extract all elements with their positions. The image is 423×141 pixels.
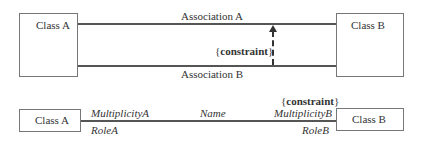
- class-a-box-top: Class A: [19, 13, 78, 77]
- multiplicity-a-label: MultiplicityA: [91, 107, 149, 119]
- constraint-label-bottom: {constraint}: [281, 95, 339, 107]
- class-b-box-bottom: Class B: [336, 108, 404, 131]
- class-b-box-top: Class B: [336, 13, 404, 77]
- association-b-line: [78, 65, 336, 67]
- class-b-label: Class B: [351, 19, 385, 31]
- role-b-label: RoleB: [302, 124, 329, 136]
- association-name-label: Name: [200, 107, 226, 119]
- class-a-label: Class A: [35, 114, 69, 126]
- association-line: [81, 120, 336, 122]
- class-a-box-bottom: Class A: [19, 109, 81, 132]
- association-a-label: Association A: [181, 10, 243, 22]
- constraint-label-top: {constraint}: [215, 45, 273, 57]
- association-b-label: Association B: [181, 68, 243, 80]
- class-a-label: Class A: [36, 19, 70, 31]
- arrowhead-up-icon: [269, 25, 277, 33]
- multiplicity-b-label: MultiplicityB: [274, 107, 332, 119]
- class-b-label: Class B: [352, 113, 386, 125]
- role-a-label: RoleA: [91, 124, 118, 136]
- association-a-line: [78, 23, 336, 25]
